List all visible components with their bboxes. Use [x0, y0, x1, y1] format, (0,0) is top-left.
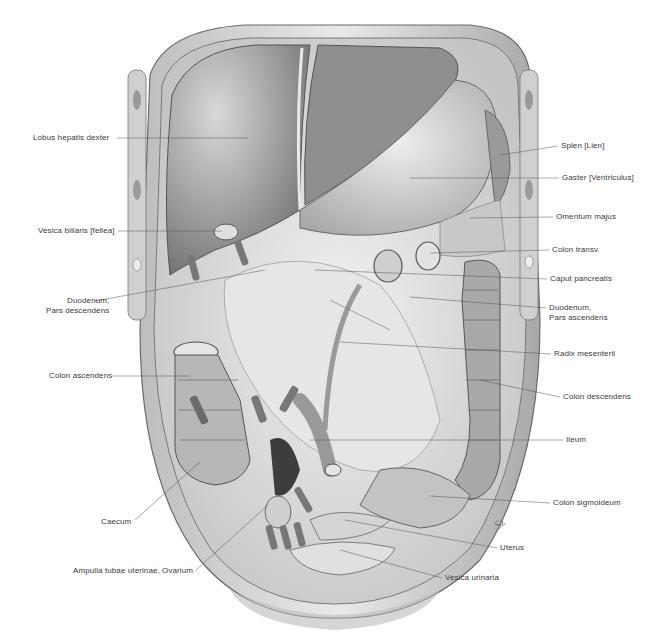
- label-ileum: Ileum: [566, 435, 586, 445]
- label-omentum-majus: Omentum majus: [556, 212, 616, 222]
- label-gaster: Gaster [Ventriculus]: [562, 173, 634, 183]
- colon-transversum: [416, 242, 440, 270]
- label-duodenum-pars-descendens: Duodenum, Pars descendens: [46, 296, 109, 316]
- label-radix-mesenterii: Radix mesenterii: [554, 349, 615, 359]
- gallbladder: [214, 224, 238, 240]
- label-line: Duodenum,: [549, 303, 608, 313]
- label-line: Pars ascendens: [549, 313, 608, 323]
- label-caput-pancreatis: Caput pancreatis: [550, 274, 612, 284]
- label-line: Duodenum,: [46, 296, 109, 306]
- label-uterus: Uterus: [500, 543, 524, 553]
- label-vesica-urinaria: Vesica urinaria: [445, 573, 499, 583]
- label-ampulla-tubae-ovarium: Ampulla tubae uterinae, Ovarium: [73, 566, 193, 576]
- label-colon-ascendens: Colon ascendens: [49, 371, 112, 381]
- label-vesica-biliaris: Vesica biliaris [fellea]: [38, 226, 115, 236]
- label-colon-transversum: Colon transv.: [552, 245, 600, 255]
- label-lobus-hepatis-dexter: Lobus hepatis dexter: [33, 133, 109, 143]
- label-splen: Splen [Lien]: [561, 141, 604, 151]
- label-colon-descendens: Colon descendens: [563, 392, 631, 402]
- label-caecum: Caecum: [101, 517, 131, 527]
- duodenum-jejunal: [374, 250, 402, 282]
- ovarium: [265, 496, 291, 528]
- label-line: Pars descendens: [46, 306, 109, 316]
- label-colon-sigmoideum: Colon sigmoideum: [553, 498, 621, 508]
- label-duodenum-pars-ascendens: Duodenum, Pars ascendens: [549, 303, 608, 323]
